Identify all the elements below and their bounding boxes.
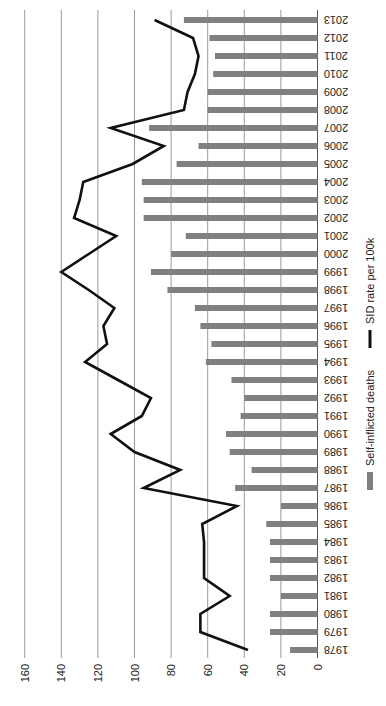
year-label: 1998 — [324, 284, 348, 296]
sid-rate-line — [61, 20, 248, 650]
axis-tick-label: 100 — [129, 664, 141, 682]
bar — [208, 89, 318, 95]
axis-tick-label: 40 — [238, 664, 250, 676]
bar — [231, 377, 317, 383]
year-label: 1985 — [324, 518, 348, 530]
bar — [270, 557, 318, 563]
axis-tick-label: 0 — [312, 664, 324, 670]
bar — [171, 251, 317, 257]
year-label: 1997 — [324, 302, 348, 314]
year-label: 2011 — [324, 50, 348, 62]
year-label: 1978 — [324, 644, 348, 656]
year-label: 2003 — [324, 194, 348, 206]
axis-tick-label: 20 — [275, 664, 287, 676]
axis-tick-label: 80 — [165, 664, 177, 676]
year-label: 1993 — [324, 374, 348, 386]
year-label: 2008 — [324, 104, 348, 116]
bar — [149, 125, 317, 131]
year-label: 1996 — [324, 320, 348, 332]
bar — [208, 107, 318, 113]
year-label: 1990 — [324, 428, 348, 440]
bar — [266, 521, 317, 527]
line-series-sid-rate — [61, 20, 248, 650]
year-label: 2001 — [324, 230, 348, 242]
bar — [195, 305, 318, 311]
bar — [186, 233, 318, 239]
bar — [144, 215, 318, 221]
axis-tick-label: 60 — [202, 664, 214, 676]
bar — [281, 593, 318, 599]
bar-series-self-inflicted-deaths — [142, 17, 318, 653]
bar — [270, 575, 318, 581]
year-label: 1983 — [324, 554, 348, 566]
year-label: 1982 — [324, 572, 348, 584]
year-label: 2005 — [324, 158, 348, 170]
year-label: 2013 — [324, 14, 348, 26]
axis-tick-label: 120 — [92, 664, 104, 682]
year-label: 1995 — [324, 338, 348, 350]
axis-tick-label: 140 — [55, 664, 67, 682]
bar — [230, 449, 318, 455]
year-label: 2004 — [324, 176, 348, 188]
year-label: 1992 — [324, 392, 348, 404]
bar — [244, 395, 317, 401]
year-label: 2012 — [324, 32, 348, 44]
bar — [144, 197, 318, 203]
bar — [213, 71, 317, 77]
year-label: 2002 — [324, 212, 348, 224]
year-label: 2010 — [324, 68, 348, 80]
year-label: 2000 — [324, 248, 348, 260]
bar — [270, 629, 318, 635]
year-label: 2006 — [324, 140, 348, 152]
bar — [290, 647, 317, 653]
year-label: 1988 — [324, 464, 348, 476]
bar — [200, 323, 317, 329]
bar — [252, 467, 318, 473]
legend-label-sid-rate: SID rate per 100k — [364, 237, 376, 324]
year-label: 1981 — [324, 590, 348, 602]
year-label: 1991 — [324, 410, 348, 422]
bar — [270, 611, 318, 617]
value-axis: 020406080100120140160 — [19, 664, 324, 682]
legend-label-self-inflicted-deaths: Self-inflicted deaths — [364, 370, 376, 466]
bar — [199, 143, 318, 149]
bar — [235, 485, 317, 491]
axis-tick-label: 160 — [19, 664, 31, 682]
bar — [210, 35, 318, 41]
year-label: 1986 — [324, 500, 348, 512]
year-label: 1979 — [324, 626, 348, 638]
bar — [167, 287, 317, 293]
legend-bar-swatch — [367, 472, 373, 490]
bar — [211, 341, 317, 347]
year-label: 1994 — [324, 356, 348, 368]
bar — [206, 359, 318, 365]
year-label: 2009 — [324, 86, 348, 98]
legend: Self-inflicted deaths SID rate per 100k — [364, 237, 376, 490]
year-label: 2007 — [324, 122, 348, 134]
year-label: 1999 — [324, 266, 348, 278]
chart: 020406080100120140160 197819791980198119… — [0, 0, 386, 706]
year-label: 1980 — [324, 608, 348, 620]
bar — [151, 269, 318, 275]
bar — [270, 539, 318, 545]
bar — [241, 413, 318, 419]
year-label: 1984 — [324, 536, 348, 548]
bar — [215, 53, 317, 59]
bar — [177, 161, 318, 167]
bar — [184, 17, 318, 23]
bar — [281, 503, 318, 509]
year-label: 1987 — [324, 482, 348, 494]
category-axis-years: 1978197919801981198219831984198519861987… — [324, 14, 348, 656]
bar — [226, 431, 318, 437]
bar — [142, 179, 318, 185]
year-label: 1989 — [324, 446, 348, 458]
